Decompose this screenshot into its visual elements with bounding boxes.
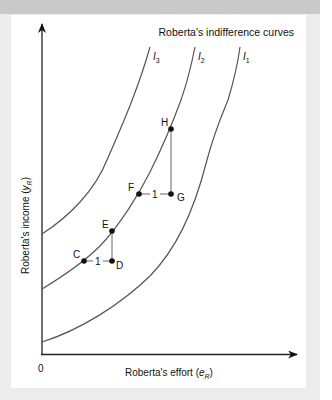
point-e <box>109 228 115 234</box>
label-d: D <box>116 260 123 271</box>
curve-label-i2: I2 <box>198 51 205 64</box>
label-g: G <box>177 192 185 203</box>
points <box>81 126 174 264</box>
figure-title: Roberta's indifference curves <box>159 26 294 38</box>
label-c: C <box>73 249 80 260</box>
step-lines <box>84 129 171 261</box>
x-axis-label: Roberta's effort (eR) <box>125 367 213 380</box>
indifference-curve-diagram: C D E F G H 1 1 I3 I2 I1 Roberta's indif… <box>0 0 332 400</box>
label-f: F <box>128 182 134 193</box>
point-g <box>168 191 174 197</box>
indifference-curve-i2 <box>42 47 195 289</box>
step-label-cd: 1 <box>95 256 101 267</box>
point-d <box>109 258 115 264</box>
point-c <box>81 258 87 264</box>
curve-label-i3: I3 <box>153 51 160 64</box>
point-f <box>136 191 142 197</box>
step-label-fg: 1 <box>152 189 158 200</box>
curve-label-i1: I1 <box>243 51 250 64</box>
label-e: E <box>102 219 109 230</box>
indifference-curve-i3 <box>42 47 150 234</box>
label-h: H <box>161 117 168 128</box>
origin-label: 0 <box>38 363 44 374</box>
y-axis-label: Roberta's income (yR) <box>20 177 33 274</box>
point-h <box>168 126 174 132</box>
